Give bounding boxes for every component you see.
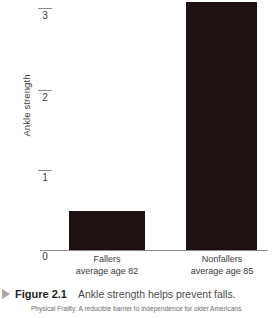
y-tick-label-2: 2 (34, 91, 56, 103)
category-sublabel-nonfallers: average age 85 (167, 266, 274, 278)
figure-caption: Figure 2.1 Ankle strength helps prevent … (0, 286, 274, 302)
bar-fallers (69, 211, 145, 250)
figure-container: Ankle strength 3 2 1 0 Fallers average a… (0, 0, 274, 282)
bar-nonfallers (186, 2, 257, 250)
category-name-fallers: Fallers (52, 254, 162, 266)
y-tick-1: 1 (34, 170, 56, 183)
y-axis-title: Ankle strength (21, 36, 32, 176)
y-tick-3: 3 (34, 8, 56, 21)
y-tick-label-1: 1 (34, 171, 56, 183)
plot-area: 3 2 1 0 Fallers average age 82 Nonfaller… (46, 0, 268, 252)
figure-number: Figure 2.1 (15, 288, 67, 300)
category-name-nonfallers: Nonfallers (167, 254, 274, 266)
y-tick-label-3: 3 (34, 9, 56, 21)
category-sublabel-fallers: average age 82 (52, 266, 162, 278)
figure-source: Physical Frailty: A reducible barrier to… (0, 305, 274, 312)
category-label-nonfallers: Nonfallers average age 85 (167, 254, 274, 277)
triangle-right-icon (2, 289, 10, 299)
x-axis-line (40, 250, 268, 251)
category-label-fallers: Fallers average age 82 (52, 254, 162, 277)
y-tick-2: 2 (34, 90, 56, 103)
figure-caption-text: Ankle strength helps prevent falls. (78, 288, 236, 300)
